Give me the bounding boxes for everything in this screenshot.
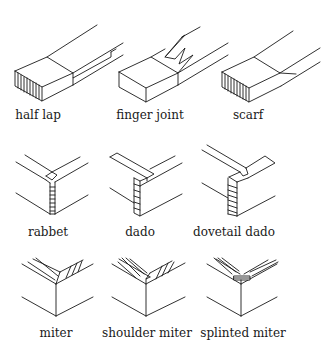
label-miter: miter — [40, 326, 73, 340]
dovetail-dado-drawing — [202, 145, 275, 216]
rabbet-drawing — [16, 155, 88, 214]
label-shoulder-miter: shoulder miter — [102, 326, 192, 340]
half-lap-drawing — [15, 25, 123, 101]
joints-diagram — [0, 0, 333, 362]
label-finger-joint: finger joint — [116, 108, 183, 122]
finger-joint-drawing — [119, 27, 228, 102]
label-rabbet: rabbet — [28, 225, 68, 239]
miter-drawing — [22, 258, 93, 316]
label-half-lap: half lap — [15, 108, 61, 122]
splinted-miter-drawing — [207, 258, 278, 316]
label-dovetail-dado: dovetail dado — [193, 225, 275, 239]
label-dado: dado — [125, 225, 155, 239]
shoulder-miter-drawing — [112, 258, 185, 316]
label-splinted-miter: splinted miter — [200, 326, 286, 340]
scarf-drawing — [222, 31, 320, 102]
dado-drawing — [110, 153, 182, 216]
label-scarf: scarf — [233, 108, 263, 122]
